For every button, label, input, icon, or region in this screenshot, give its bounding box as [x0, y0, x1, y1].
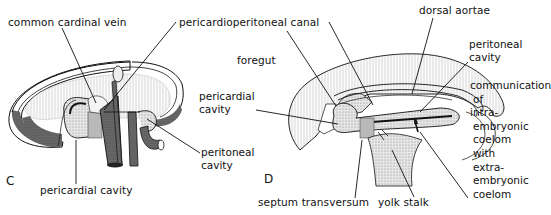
label-pericardial-cavity-d: pericardial cavity [199, 90, 255, 116]
panel-letter-d: D [264, 172, 273, 186]
label-pericardioperitoneal-canal: pericardioperitoneal canal [179, 16, 319, 28]
label-communication-coelom: communication of intra- embryonic coelom… [470, 79, 551, 201]
embryo-coelom-diagram: common cardinal vein pericardioperitonea… [0, 0, 551, 215]
label-peritoneal-cavity-c: peritoneal cavity [201, 146, 254, 172]
label-yolk-stalk: yolk stalk [378, 196, 429, 208]
diagram-artwork [0, 0, 551, 215]
label-pericardial-cavity-c: pericardial cavity [40, 184, 132, 196]
label-peritoneal-cavity-d: peritoneal cavity [469, 38, 522, 64]
panel-c-embryo [9, 61, 183, 168]
label-foregut: foregut [237, 54, 276, 66]
panel-letter-c: C [6, 174, 14, 188]
label-common-cardinal-vein: common cardinal vein [8, 16, 127, 28]
label-septum-transversum: septum transversum [258, 196, 369, 208]
label-dorsal-aortae: dorsal aortae [419, 4, 490, 16]
